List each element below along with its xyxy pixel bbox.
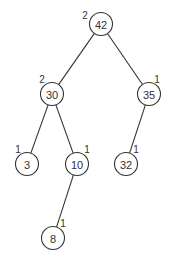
node-value: 3 bbox=[24, 159, 30, 171]
node-height-label: 2 bbox=[82, 10, 88, 21]
node-height-label: 1 bbox=[84, 144, 90, 155]
node-value: 10 bbox=[71, 159, 83, 171]
tree-node-3: 31 bbox=[15, 144, 38, 176]
edge-30-3 bbox=[31, 105, 48, 153]
node-height-label: 2 bbox=[39, 74, 45, 85]
tree-node-42: 422 bbox=[82, 10, 112, 36]
tree-node-35: 351 bbox=[138, 74, 161, 106]
node-height-label: 1 bbox=[133, 144, 139, 155]
tree-node-10: 101 bbox=[66, 144, 91, 176]
edge-30-10 bbox=[56, 105, 73, 153]
tree-nodes: 4223023513110132181 bbox=[15, 10, 160, 250]
edge-42-30 bbox=[59, 33, 95, 84]
tree-diagram: 4223023513110132181 bbox=[0, 0, 171, 259]
node-value: 30 bbox=[46, 89, 58, 101]
edge-42-35 bbox=[108, 33, 143, 84]
node-value: 8 bbox=[50, 233, 56, 245]
tree-node-8: 81 bbox=[42, 218, 67, 250]
node-value: 32 bbox=[120, 159, 132, 171]
tree-node-32: 321 bbox=[115, 144, 140, 176]
tree-node-30: 302 bbox=[39, 74, 63, 106]
tree-edges bbox=[31, 33, 146, 227]
node-value: 42 bbox=[95, 19, 107, 31]
node-height-label: 1 bbox=[154, 74, 160, 85]
node-value: 35 bbox=[143, 89, 155, 101]
node-height-label: 1 bbox=[15, 144, 21, 155]
node-height-label: 1 bbox=[60, 218, 66, 229]
